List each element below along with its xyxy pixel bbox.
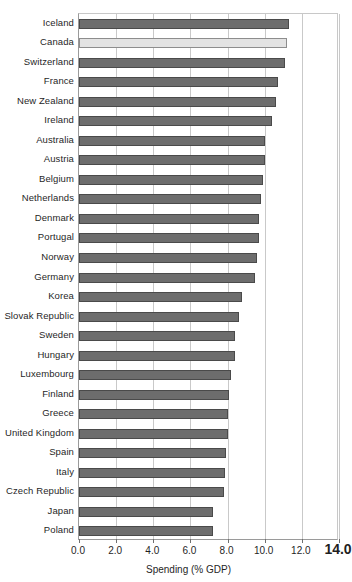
bar [79,253,257,263]
x-axis-tick [190,539,191,543]
bar [79,175,263,185]
bar [79,526,213,536]
x-axis-tick-label: 8.0 [220,545,234,556]
x-axis-tick-label: 2.0 [108,545,122,556]
gridline [339,14,340,539]
bar [79,292,242,302]
category-label: Luxembourg [0,369,74,379]
bar [79,331,235,341]
category-label: Poland [0,525,74,535]
category-label: Greece [0,408,74,418]
x-axis-tick-label: 4.0 [145,545,159,556]
category-label: Portugal [0,232,74,242]
x-axis-title-text: Spending (% GDP) [146,564,231,575]
bar [79,58,285,68]
x-axis-title: Spending (% GDP) [0,564,349,575]
x-axis-tick-label: 12.0 [291,545,310,556]
bar [79,233,259,243]
plot-area [78,13,338,540]
category-label: Netherlands [0,193,74,203]
category-label: Italy [0,467,74,477]
category-label: Austria [0,154,74,164]
bar [79,390,229,400]
category-label: Denmark [0,213,74,223]
bar [79,136,265,146]
category-label: Sweden [0,330,74,340]
bar [79,97,276,107]
bar [79,448,226,458]
x-axis-tick-label: 10.0 [254,545,273,556]
category-label: United Kingdom [0,428,74,438]
bar [79,351,235,361]
category-label: Norway [0,252,74,262]
x-axis-tick [153,539,154,543]
category-label: Spain [0,447,74,457]
bar [79,409,228,419]
category-label: Australia [0,135,74,145]
bar [79,273,255,283]
bar [79,194,261,204]
bar [79,155,265,165]
category-label: Hungary [0,350,74,360]
category-label: Czech Republic [0,486,74,496]
bar-rows [79,14,337,539]
category-label: New Zealand [0,96,74,106]
bar [79,507,213,517]
bar [79,312,239,322]
bar [79,370,231,380]
x-axis-tick-label: 6.0 [182,545,196,556]
bar [79,487,224,497]
category-label: Iceland [0,18,74,28]
bar [79,429,228,439]
x-axis-tick [116,539,117,543]
category-label: Canada [0,37,74,47]
x-axis-tick [265,539,266,543]
x-axis-tick [302,539,303,543]
x-axis-tick [228,539,229,543]
category-label: France [0,76,74,86]
category-label: Japan [0,506,74,516]
category-label: Slovak Republic [0,311,74,321]
bar [79,468,225,478]
category-label: Ireland [0,115,74,125]
category-label: Germany [0,272,74,282]
category-axis-labels: IcelandCanadaSwitzerlandFranceNew Zealan… [0,13,74,540]
bar [79,77,278,87]
x-axis-tick-label: 14.0 [324,541,351,557]
bar [79,214,259,224]
category-label: Switzerland [0,57,74,67]
bar [79,19,289,29]
bar [79,116,272,126]
category-label: Finland [0,389,74,399]
bar [79,38,287,48]
x-axis-tick-label: 0.0 [71,545,85,556]
category-label: Korea [0,291,74,301]
category-label: Belgium [0,174,74,184]
x-axis-tick [79,539,80,543]
